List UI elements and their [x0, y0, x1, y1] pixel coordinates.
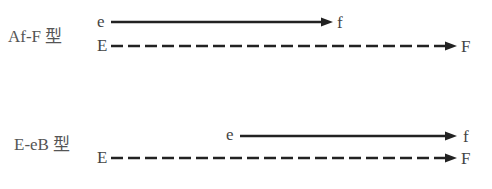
upper-end-label: f — [463, 127, 469, 146]
type-label: Af-F 型 — [8, 27, 62, 46]
panel-e-eb: E-eB 型 e f E F — [14, 125, 470, 168]
lower-arrow-head — [445, 154, 457, 163]
lower-arrow-head — [445, 42, 457, 51]
lower-end-label: F — [461, 37, 470, 56]
lower-start-label: E — [97, 36, 107, 55]
upper-arrow-head — [321, 18, 333, 27]
upper-end-label: f — [337, 13, 343, 32]
upper-start-label: e — [226, 125, 234, 144]
lower-start-label: E — [97, 148, 107, 167]
upper-arrow-head — [445, 132, 457, 141]
fusion-type-diagram: Af-F 型 e f E F E-eB 型 e f E F — [0, 0, 492, 189]
lower-end-label: F — [461, 149, 470, 168]
panel-af-f: Af-F 型 e f E F — [8, 12, 470, 56]
upper-start-label: e — [97, 12, 105, 31]
type-label: E-eB 型 — [14, 135, 70, 154]
